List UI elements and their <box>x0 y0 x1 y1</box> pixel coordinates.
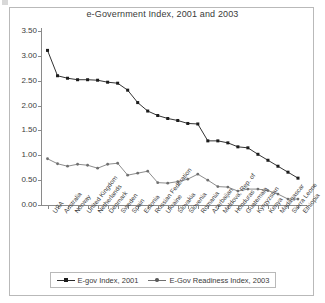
data-point <box>46 157 49 160</box>
data-point <box>206 179 209 182</box>
data-point <box>196 122 199 125</box>
data-point <box>56 162 59 165</box>
chart-figure: e-Government Index, 2001 and 2003 3.503.… <box>0 0 325 303</box>
data-point <box>216 139 219 142</box>
data-point <box>76 78 79 81</box>
data-point <box>246 146 249 149</box>
y-tick-label: 3.00 <box>3 51 37 60</box>
chart-title: e-Government Index, 2001 and 2003 <box>0 9 325 19</box>
y-tick-label: 0.50 <box>3 175 37 184</box>
legend-marker-square-icon <box>57 277 75 284</box>
data-point <box>96 167 99 170</box>
data-point <box>126 89 129 92</box>
legend-item-2003: E-Gov Readiness Index, 2003 <box>148 276 269 285</box>
data-point <box>226 141 229 144</box>
data-point <box>156 114 159 117</box>
y-tick-label: 1.50 <box>3 125 37 134</box>
legend-label-2003: E-Gov Readiness Index, 2003 <box>169 276 269 285</box>
data-point <box>196 173 199 176</box>
data-point <box>66 77 69 80</box>
legend-marker-dot-icon <box>148 277 166 284</box>
y-tick-label: 3.50 <box>3 26 37 35</box>
data-point <box>176 119 179 122</box>
data-point <box>296 177 299 180</box>
data-point <box>116 162 119 165</box>
series-lines <box>42 31 306 205</box>
chart-legend: E-gov Index, 2001 E-Gov Readiness Index,… <box>50 272 276 288</box>
data-point <box>136 101 139 104</box>
series-line-1 <box>48 50 298 178</box>
data-point <box>96 79 99 82</box>
y-tick-label: 2.00 <box>3 101 37 110</box>
data-point <box>146 110 149 113</box>
data-point <box>166 117 169 120</box>
y-tick-label: 2.50 <box>3 76 37 85</box>
data-point <box>116 82 119 85</box>
data-point <box>126 174 129 177</box>
data-point <box>286 171 289 174</box>
data-point <box>86 78 89 81</box>
legend-item-2001: E-gov Index, 2001 <box>57 276 139 285</box>
data-point <box>166 182 169 185</box>
data-point <box>46 49 49 52</box>
data-point <box>156 181 159 184</box>
y-tick-label: 0.00 <box>3 200 37 209</box>
data-point <box>186 122 189 125</box>
data-point <box>276 165 279 168</box>
x-tick <box>48 205 49 209</box>
data-point <box>236 145 239 148</box>
data-point <box>146 170 149 173</box>
plot-area: 3.503.002.502.001.501.000.500.00 <box>42 31 306 205</box>
data-point <box>216 185 219 188</box>
data-point <box>106 163 109 166</box>
data-point <box>256 153 259 156</box>
data-point <box>106 81 109 84</box>
data-point <box>86 164 89 167</box>
legend-label-2001: E-gov Index, 2001 <box>78 276 139 285</box>
data-point <box>76 163 79 166</box>
data-point <box>266 159 269 162</box>
y-tick-label: 1.00 <box>3 150 37 159</box>
y-tick <box>38 205 42 206</box>
data-point <box>206 139 209 142</box>
page-corner-artifact <box>2 0 8 5</box>
data-point <box>56 74 59 77</box>
data-point <box>186 178 189 181</box>
data-point <box>136 172 139 175</box>
data-point <box>66 165 69 168</box>
